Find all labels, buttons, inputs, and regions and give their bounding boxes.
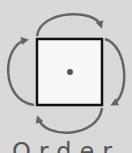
rotation-diagram	[0, 0, 132, 153]
center-dot	[67, 69, 73, 75]
arrow-left-icon	[8, 40, 34, 105]
arrow-bottom-icon	[38, 108, 102, 133]
caption: Order 4	[0, 140, 132, 153]
arrow-right-icon	[105, 39, 124, 104]
arrow-top-icon	[37, 14, 101, 36]
